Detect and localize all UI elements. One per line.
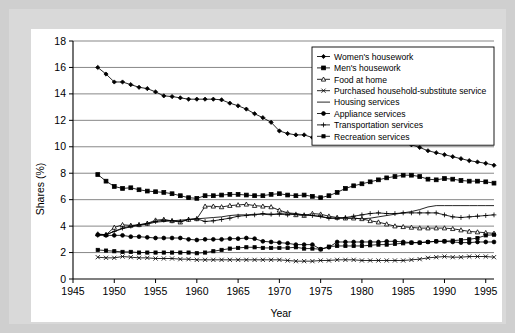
- series-marker-7: [253, 246, 256, 249]
- y-tick-label-10: 10: [54, 140, 66, 152]
- series-marker-6: [211, 218, 216, 223]
- plot-area: 0246810121416181945195019551960196519701…: [31, 29, 502, 322]
- series-marker-6: [360, 212, 365, 217]
- legend-item-3[interactable]: Purchased household-substitute service: [317, 86, 487, 96]
- series-marker-5: [335, 240, 339, 244]
- series-marker-5: [228, 237, 232, 241]
- series-marker-6: [475, 214, 480, 219]
- series-marker-1: [104, 179, 108, 183]
- series-marker-5: [170, 236, 174, 240]
- series-marker-7: [212, 250, 215, 253]
- series-marker-5: [484, 240, 488, 244]
- series-marker-7: [228, 247, 231, 250]
- chart-legend[interactable]: Women's houseworkMen's houseworkFood at …: [312, 47, 494, 145]
- series-marker-5: [220, 237, 224, 241]
- series-marker-7: [311, 247, 314, 250]
- series-marker-0: [459, 157, 463, 161]
- series-marker-2: [252, 203, 256, 207]
- series-marker-1: [319, 196, 323, 200]
- series-marker-1: [401, 173, 405, 177]
- y-tick-label-8: 8: [60, 167, 66, 179]
- series-marker-7: [468, 238, 471, 241]
- series-marker-5: [195, 238, 199, 242]
- series-marker-7: [245, 246, 248, 249]
- series-marker-0: [492, 163, 496, 167]
- legend-marker-1: [322, 66, 326, 70]
- series-marker-6: [417, 210, 422, 215]
- series-marker-6: [260, 211, 265, 216]
- series-marker-7: [129, 250, 132, 253]
- series-marker-7: [179, 251, 182, 254]
- series-marker-7: [426, 240, 429, 243]
- series-marker-1: [269, 192, 273, 196]
- series-marker-6: [203, 219, 208, 224]
- series-marker-2: [277, 208, 281, 212]
- figure-container: 0246810121416181945195019551960196519701…: [0, 0, 515, 333]
- chart-panel: 0246810121416181945195019551960196519701…: [31, 29, 502, 322]
- series-marker-7: [418, 241, 421, 244]
- series-marker-1: [492, 181, 496, 185]
- series-marker-1: [195, 196, 199, 200]
- series-marker-5: [492, 240, 496, 244]
- series-marker-2: [228, 203, 232, 207]
- series-marker-2: [219, 205, 223, 209]
- series-marker-1: [112, 185, 116, 189]
- series-marker-7: [410, 241, 413, 244]
- series-marker-1: [236, 192, 240, 196]
- series-marker-2: [261, 204, 265, 208]
- series-marker-7: [369, 244, 372, 247]
- x-tick-label-1945: 1945: [61, 285, 85, 297]
- series-marker-5: [476, 240, 480, 244]
- x-tick-label-1975: 1975: [309, 285, 333, 297]
- series-marker-1: [178, 194, 182, 198]
- series-marker-0: [137, 85, 141, 89]
- series-marker-1: [352, 184, 356, 188]
- series-marker-1: [344, 187, 348, 191]
- series-marker-7: [203, 251, 206, 254]
- series-marker-5: [187, 237, 191, 241]
- series-marker-7: [121, 250, 124, 253]
- series-marker-1: [170, 192, 174, 196]
- series-marker-7: [476, 236, 479, 239]
- series-marker-2: [467, 229, 471, 233]
- legend-label-2: Food at home: [334, 75, 387, 85]
- series-marker-7: [187, 251, 190, 254]
- line-chart: 0246810121416181945195019551960196519701…: [31, 29, 502, 322]
- series-marker-1: [203, 194, 207, 198]
- series-marker-0: [294, 133, 298, 137]
- series-marker-1: [277, 192, 281, 196]
- series-marker-0: [219, 98, 223, 102]
- series-marker-2: [211, 204, 215, 208]
- x-tick-label-1960: 1960: [185, 285, 209, 297]
- x-tick-label-1955: 1955: [144, 285, 168, 297]
- series-marker-7: [402, 242, 405, 245]
- series-marker-5: [211, 237, 215, 241]
- series-marker-0: [302, 133, 306, 137]
- series-marker-6: [376, 210, 381, 215]
- series-marker-1: [360, 182, 364, 186]
- series-marker-0: [211, 97, 215, 101]
- series-marker-1: [368, 180, 372, 184]
- series-marker-1: [467, 179, 471, 183]
- legend-label-3: Purchased household-substitute service: [334, 86, 487, 96]
- series-marker-6: [393, 211, 398, 216]
- series-marker-1: [310, 194, 314, 198]
- series-marker-1: [253, 194, 257, 198]
- series-marker-0: [145, 87, 149, 91]
- series-marker-6: [467, 214, 472, 219]
- series-marker-7: [327, 245, 330, 248]
- series-marker-0: [178, 96, 182, 100]
- x-axis-title: Year: [270, 307, 292, 319]
- series-marker-7: [195, 252, 198, 255]
- series-marker-7: [303, 247, 306, 250]
- series-marker-1: [476, 179, 480, 183]
- series-marker-1: [451, 177, 455, 181]
- series-6: [95, 210, 496, 237]
- series-marker-1: [434, 178, 438, 182]
- series-marker-5: [203, 237, 207, 241]
- series-marker-7: [360, 244, 363, 247]
- series-marker-2: [203, 204, 207, 208]
- series-marker-7: [294, 246, 297, 249]
- series-marker-7: [278, 246, 281, 249]
- series-marker-2: [409, 225, 413, 229]
